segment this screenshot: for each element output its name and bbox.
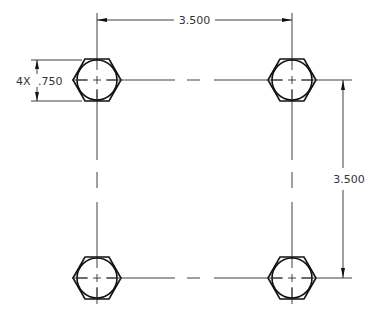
- diameter-value-label: .750: [38, 75, 63, 88]
- vertical-dimension: 3.500: [333, 80, 365, 278]
- bolt-pattern-drawing: 3.500 3.500 4X .750: [0, 0, 372, 325]
- arrowhead-down-icon: [341, 268, 345, 278]
- diameter-qty-label: 4X: [16, 75, 31, 88]
- vertical-dimension-label: 3.500: [333, 173, 365, 186]
- diameter-dimension: 4X .750: [16, 60, 82, 101]
- arrowhead-left-icon: [97, 18, 107, 22]
- horizontal-dimension-label: 3.500: [179, 14, 211, 27]
- arrowhead-down-icon: [35, 92, 39, 101]
- arrowhead-right-icon: [282, 18, 292, 22]
- horizontal-dimension: 3.500: [97, 14, 292, 27]
- arrowhead-up-icon: [35, 60, 39, 69]
- arrowhead-up-icon: [341, 80, 345, 90]
